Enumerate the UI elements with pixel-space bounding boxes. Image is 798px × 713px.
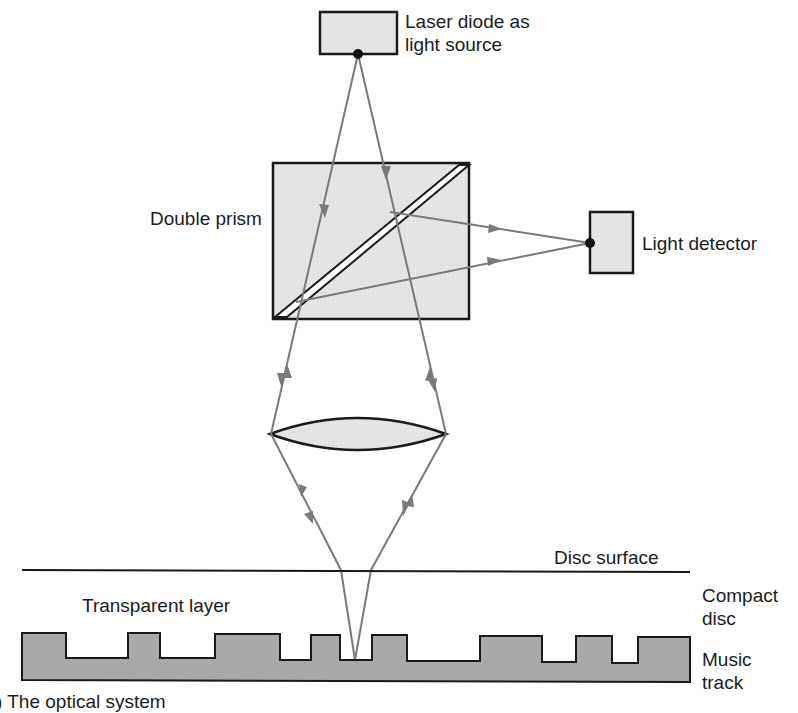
label-disc-surface: Disc surface: [554, 546, 659, 569]
music-label-line2: track: [702, 671, 752, 694]
label-compact-disc: Compact disc: [702, 584, 778, 630]
laser-emitter-dot: [353, 49, 363, 59]
label-light-detector: Light detector: [642, 232, 757, 255]
light-rays: [271, 54, 590, 660]
label-laser-diode: Laser diode as light source: [405, 10, 530, 56]
label-transparent-layer: Transparent layer: [82, 594, 230, 617]
music-label-line1: Music: [702, 648, 752, 671]
lens: [270, 418, 446, 450]
laser-label-line1: Laser diode as: [405, 10, 530, 33]
compact-label-line1: Compact: [702, 584, 778, 607]
disc-surface-line: [22, 570, 690, 572]
laser-diode: [320, 12, 397, 54]
compact-label-line2: disc: [702, 607, 778, 630]
figure-caption: ) The optical system: [0, 690, 166, 713]
detector-dot: [585, 238, 595, 248]
laser-label-line2: light source: [405, 33, 530, 56]
label-double-prism: Double prism: [150, 207, 262, 230]
light-detector: [590, 212, 633, 273]
label-music-track: Music track: [702, 648, 752, 694]
